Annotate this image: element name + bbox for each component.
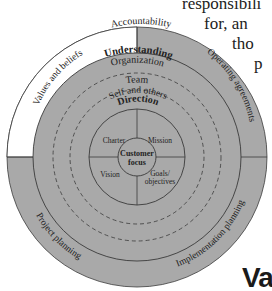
charter-label: Charter bbox=[103, 136, 126, 145]
objectives-label: objectives bbox=[145, 177, 175, 186]
focus-label: focus bbox=[128, 158, 146, 167]
customer-label: Customer bbox=[120, 149, 154, 158]
team-label: Team bbox=[125, 73, 149, 85]
mission-label: Mission bbox=[148, 136, 172, 145]
accountability-diagram: Accountability Values and beliefs Operat… bbox=[0, 0, 272, 291]
partial-heading: Va bbox=[242, 262, 272, 291]
vision-label: Vision bbox=[100, 170, 120, 179]
